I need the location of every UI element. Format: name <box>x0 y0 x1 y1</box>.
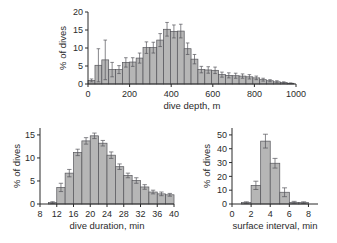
x-tick-label: 8 <box>37 209 42 219</box>
histogram-bar <box>164 29 171 84</box>
y-tick-label: 10 <box>217 185 227 195</box>
y-axis-label: % of dives <box>57 26 68 70</box>
x-tick-label: 8 <box>306 209 311 219</box>
x-tick-label: 24 <box>102 209 112 219</box>
x-axis-label: dive depth, m <box>163 100 220 111</box>
x-tick-label: 1000 <box>286 89 306 99</box>
histogram-bar <box>65 173 73 204</box>
x-tick-label: 4 <box>268 209 273 219</box>
histogram-bar <box>270 163 280 204</box>
dive-depth-plot: 0200400600800100005101520dive depth, m% … <box>0 0 337 118</box>
x-tick-label: 40 <box>169 209 179 219</box>
dive-duration-plot: 81216202428323640051015dive duration, mi… <box>0 118 190 243</box>
y-tick-label: 30 <box>217 158 227 168</box>
y-tick-label: 0 <box>30 199 35 209</box>
y-axis-label: % of dives <box>201 144 212 188</box>
x-tick-label: 0 <box>85 89 90 99</box>
y-tick-label: 10 <box>25 153 35 163</box>
histogram-bar <box>99 143 107 204</box>
x-tick-label: 16 <box>68 209 78 219</box>
x-tick-label: 12 <box>52 209 62 219</box>
histogram-bar <box>124 175 132 204</box>
y-tick-label: 40 <box>217 144 227 154</box>
histogram-bar <box>107 155 115 204</box>
y-tick-label: 50 <box>217 130 227 140</box>
y-tick-label: 5 <box>30 176 35 186</box>
y-tick-label: 15 <box>73 25 83 35</box>
y-tick-label: 0 <box>222 199 227 209</box>
surface-interval-plot: 0246801020304050surface interval, min% o… <box>190 118 337 243</box>
y-tick-label: 10 <box>73 43 83 53</box>
x-tick-label: 6 <box>287 209 292 219</box>
histogram-bar <box>82 141 90 204</box>
x-tick-label: 2 <box>249 209 254 219</box>
y-tick-label: 20 <box>217 172 227 182</box>
x-tick-label: 32 <box>135 209 145 219</box>
x-axis-label: dive duration, min <box>70 220 145 231</box>
chart-panel-dive-depth: 0200400600800100005101520dive depth, m% … <box>0 0 337 118</box>
y-tick-label: 20 <box>73 7 83 17</box>
y-axis-label: % of dives <box>11 144 22 188</box>
x-tick-label: 0 <box>229 209 234 219</box>
histogram-bar <box>261 141 271 204</box>
histogram-bar <box>132 181 140 204</box>
histogram-bar <box>170 31 177 84</box>
y-tick-label: 0 <box>78 79 83 89</box>
x-tick-label: 600 <box>205 89 220 99</box>
chart-panel-dive-duration: 81216202428323640051015dive duration, mi… <box>0 118 190 243</box>
chart-panel-surface-interval: 0246801020304050surface interval, min% o… <box>190 118 337 243</box>
x-tick-label: 400 <box>164 89 179 99</box>
y-tick-label: 15 <box>25 130 35 140</box>
x-tick-label: 28 <box>119 209 129 219</box>
histogram-bar <box>115 167 123 204</box>
histogram-bar <box>74 152 82 204</box>
x-tick-label: 20 <box>85 209 95 219</box>
x-tick-label: 36 <box>152 209 162 219</box>
histogram-bar <box>177 31 184 84</box>
x-axis-label: surface interval, min <box>232 220 317 231</box>
histogram-bar <box>90 136 98 204</box>
y-tick-label: 5 <box>78 61 83 71</box>
x-tick-label: 200 <box>122 89 137 99</box>
x-tick-label: 800 <box>247 89 262 99</box>
